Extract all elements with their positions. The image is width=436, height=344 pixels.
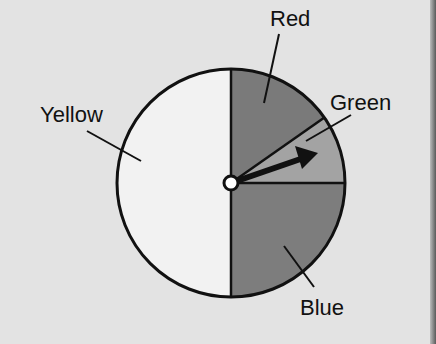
label-blue: Blue	[300, 297, 344, 319]
label-red: Red	[270, 8, 310, 30]
label-green: Green	[330, 92, 391, 114]
center-hub	[224, 176, 238, 190]
section-yellow	[117, 69, 231, 297]
spinner-diagram	[0, 0, 436, 344]
label-yellow: Yellow	[40, 104, 103, 126]
section-blue	[231, 183, 345, 297]
